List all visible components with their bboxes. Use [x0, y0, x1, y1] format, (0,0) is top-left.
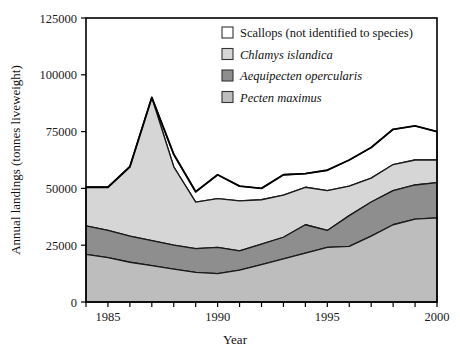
legend-label-1: Chlamys islandica [240, 48, 333, 62]
x-axis-title: Year [223, 332, 248, 347]
x-axis-tick-labels: 1985199019952000 [95, 310, 449, 324]
legend-swatch-3 [222, 92, 233, 103]
chart-svg: 0250005000075000100000125000 19851990199… [0, 0, 460, 356]
legend-label-0: Scallops (not identified to species) [240, 26, 413, 40]
y-axis-title: Annual landings (tonnes liveweight) [8, 65, 23, 255]
y-axis-tick-labels: 0250005000075000100000125000 [40, 12, 78, 310]
y-tick-label-125000: 125000 [40, 12, 78, 26]
x-tick-label-1990: 1990 [205, 310, 230, 324]
x-tick-label-1995: 1995 [315, 310, 340, 324]
stacked-area-chart-figure: 0250005000075000100000125000 19851990199… [0, 0, 460, 356]
legend-swatch-0 [222, 27, 233, 38]
legend-label-2: Aequipecten opercularis [239, 69, 362, 83]
legend-swatch-1 [222, 49, 233, 60]
y-tick-label-75000: 75000 [46, 125, 77, 139]
y-tick-label-25000: 25000 [46, 239, 77, 253]
y-tick-label-100000: 100000 [40, 68, 78, 82]
legend-label-3: Pecten maximus [239, 91, 322, 105]
y-tick-label-0: 0 [71, 296, 77, 310]
x-tick-label-1985: 1985 [95, 310, 120, 324]
y-tick-label-50000: 50000 [46, 182, 77, 196]
x-tick-label-2000: 2000 [425, 310, 450, 324]
legend-swatch-2 [222, 70, 233, 81]
